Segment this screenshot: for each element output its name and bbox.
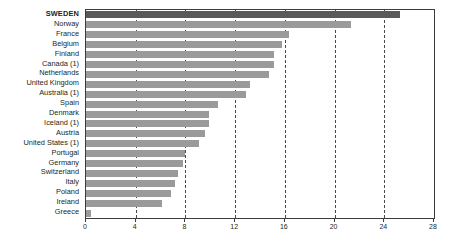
category-label: France [56,29,79,39]
category-label: Italy [65,177,79,187]
bar [86,91,246,98]
x-tick-label: 20 [330,223,338,230]
category-label: United States (1) [24,138,79,148]
category-label: Switzerland [41,167,79,177]
x-tick-mark [85,219,86,222]
category-label: Netherlands [39,68,79,78]
bar [86,51,274,58]
bar [86,130,205,137]
bar [86,111,209,118]
bar [86,21,351,28]
category-axis-labels: SWEDENNorwayFranceBelgiumFinlandCanada (… [0,9,82,217]
x-tick-mark [184,219,185,222]
category-label: Spain [60,98,79,108]
bar [86,180,175,187]
bar [86,150,185,157]
x-tick-label: 28 [429,223,437,230]
bar [86,140,199,147]
x-tick-label: 16 [280,223,288,230]
bar [86,190,171,197]
category-label: Poland [56,187,79,197]
gridline-24 [384,10,385,218]
x-tick-label: 24 [379,223,387,230]
bar [86,11,400,18]
gridline-20 [335,10,336,218]
x-tick-mark [234,219,235,222]
category-label: United Kingdom [26,78,79,88]
bar [86,170,178,177]
category-label: Austria [56,128,79,138]
bar [86,200,162,207]
category-label: Australia (1) [39,88,79,98]
plot-inner [86,10,434,218]
x-tick-label: 12 [230,223,238,230]
category-label: SWEDEN [46,9,79,19]
x-tick-mark [135,219,136,222]
x-tick-mark [383,219,384,222]
category-label: Greece [55,207,79,217]
bar [86,71,269,78]
category-label: Canada (1) [42,59,79,69]
category-label: Norway [54,19,79,29]
bar [86,31,289,38]
bar-chart: SWEDENNorwayFranceBelgiumFinlandCanada (… [0,0,453,245]
bar [86,210,91,217]
gridline-16 [285,10,286,218]
bar [86,41,282,48]
x-tick-label: 4 [133,223,137,230]
bar [86,61,274,68]
x-tick-label: 0 [83,223,87,230]
category-label: Finland [55,49,79,59]
category-label: Iceland (1) [44,118,79,128]
category-label: Portugal [51,148,79,158]
bar [86,160,183,167]
category-label: Denmark [49,108,79,118]
category-label: Belgium [52,39,79,49]
bar [86,81,250,88]
plot-area [85,9,435,219]
x-tick-label: 8 [182,223,186,230]
bar [86,101,218,108]
x-tick-mark [433,219,434,222]
category-label: Ireland [56,197,79,207]
x-tick-mark [284,219,285,222]
bar [86,120,209,127]
x-tick-mark [334,219,335,222]
category-label: Germany [49,158,79,168]
x-axis: 0481216202428 [85,219,433,239]
